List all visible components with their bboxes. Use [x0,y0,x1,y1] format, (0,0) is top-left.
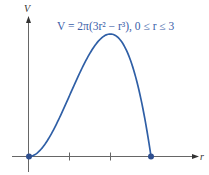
x-axis-arrow-icon [192,154,199,159]
endpoint-point [148,154,154,160]
y-axis-label: V [24,3,32,14]
x-axis-label: r [200,151,204,162]
curve-line [29,34,151,157]
chart: V r V = 2π(3r² − r³), 0 ≤ r ≤ 3 [0,0,209,175]
chart-title: V = 2π(3r² − r³), 0 ≤ r ≤ 3 [57,20,175,33]
y-axis-arrow-icon [26,16,31,23]
origin-point [26,154,32,160]
